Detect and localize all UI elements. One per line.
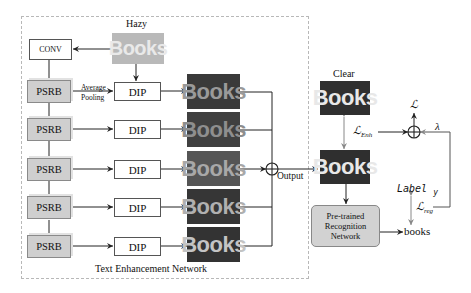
prediction-text: books	[404, 225, 430, 237]
loss-enh-symbol: ℒ	[353, 124, 361, 136]
enhanced-image-3: Books	[187, 151, 240, 186]
clear-label: Clear	[333, 68, 355, 79]
loss-reg-subscript: reg	[424, 207, 433, 215]
dip-block-2: DIP	[114, 120, 161, 139]
ground-truth-label: Label y	[397, 183, 438, 197]
output-label: Output	[277, 171, 303, 181]
total-loss-label: ℒ	[410, 98, 418, 111]
label-text: Label	[397, 183, 427, 194]
average-pooling-label-line2: Pooling	[81, 94, 104, 102]
recognition-line3: Network	[331, 231, 361, 241]
loss-reg-label: ℒreg	[416, 200, 433, 215]
loss-enh-subscript: Enh	[361, 131, 372, 139]
pretrained-recognition-network: Pre-trained Recognition Network	[311, 205, 380, 247]
recognition-line1: Pre-trained	[327, 211, 365, 221]
hazy-input-image: Books	[112, 33, 164, 64]
hazy-label: Hazy	[126, 18, 147, 29]
psrb-block-5: PSRB	[27, 235, 71, 258]
psrb-block-3: PSRB	[27, 158, 71, 181]
lambda-label: λ	[435, 120, 440, 132]
dip-block-4: DIP	[114, 198, 161, 217]
clear-image: Books	[320, 81, 370, 115]
conv-block: CONV	[29, 39, 72, 60]
enhanced-image-4: Books	[187, 189, 240, 224]
loss-enh-label: ℒEnh	[353, 124, 372, 139]
frame-title: Text Enhancement Network	[95, 263, 207, 274]
psrb-block-2: PSRB	[27, 118, 71, 141]
dip-block-3: DIP	[114, 160, 161, 179]
enhanced-image-2: Books	[187, 112, 240, 147]
recognition-line2: Recognition	[325, 221, 367, 231]
label-variable: y	[433, 188, 438, 197]
dip-block-1: DIP	[114, 82, 161, 101]
enhanced-image-1: Books	[187, 74, 240, 109]
average-pooling-label-line1: Average	[81, 84, 106, 92]
psrb-block-1: PSRB	[27, 80, 71, 103]
dip-block-5: DIP	[114, 237, 161, 256]
enhanced-output-image: Books	[320, 150, 370, 184]
loss-reg-symbol: ℒ	[416, 200, 424, 212]
psrb-block-4: PSRB	[27, 196, 71, 219]
enhanced-image-5: Books	[187, 227, 240, 262]
